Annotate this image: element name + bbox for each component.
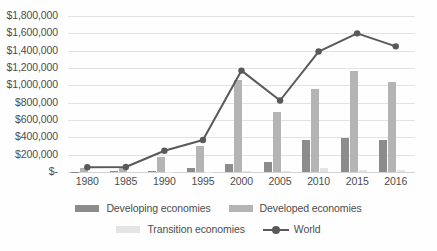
world-line-marker	[123, 164, 129, 170]
world-line-series	[68, 16, 415, 172]
y-axis-tick-label: $1,200,000	[0, 62, 58, 72]
legend-swatch-transition	[116, 226, 140, 233]
y-axis-tick-label: $-	[0, 166, 58, 176]
world-line-marker	[393, 43, 399, 49]
y-axis-tick-label: $200,000	[0, 149, 58, 159]
gridline	[68, 172, 415, 173]
world-line-marker	[238, 67, 244, 73]
world-line-marker	[200, 137, 206, 143]
y-axis-tick-label: $600,000	[0, 114, 58, 124]
y-axis-tick-labels: $1,800,000$1,600,000$1,400,000$1,200,000…	[0, 11, 62, 173]
y-axis-tick-label: $400,000	[0, 131, 58, 141]
fdi-inflows-combo-chart: $1,800,000$1,600,000$1,400,000$1,200,000…	[0, 0, 437, 251]
world-line-marker	[315, 48, 321, 54]
y-axis-tick-label: $1,400,000	[0, 45, 58, 55]
y-axis-tick-label: $1,000,000	[0, 79, 58, 89]
legend-row-bottom: Transition economiesWorld	[0, 220, 437, 238]
plot-area	[68, 16, 415, 172]
legend-item-label: World	[294, 223, 321, 235]
world-line-marker	[277, 97, 283, 103]
y-axis-tick-label: $800,000	[0, 97, 58, 107]
y-axis-tick-label: $1,600,000	[0, 27, 58, 37]
legend-item[interactable]: Developed economies	[229, 202, 362, 214]
y-axis-tick-label: $1,800,000	[0, 10, 58, 20]
legend-item-label: Developed economies	[260, 202, 362, 214]
x-axis-tick-labels: 198019851990199520002005201020152016	[68, 175, 415, 193]
world-line-marker	[161, 148, 167, 154]
legend-swatch-developing	[75, 205, 99, 212]
world-line-path	[87, 33, 395, 167]
legend-item[interactable]: Transition economies	[116, 223, 244, 235]
world-line-marker	[354, 30, 360, 36]
legend-row-top: Developing economiesDeveloped economies	[0, 199, 437, 217]
legend-item[interactable]: World	[263, 223, 321, 235]
legend-item-label: Developing economies	[106, 202, 210, 214]
chart-plot-wrapper: $1,800,000$1,600,000$1,400,000$1,200,000…	[0, 0, 437, 195]
legend-item-label: Transition economies	[147, 223, 244, 235]
legend-item[interactable]: Developing economies	[75, 202, 210, 214]
legend-swatch-line-marker	[263, 225, 289, 234]
chart-legend: Developing economiesDeveloped economies …	[0, 197, 437, 245]
legend-swatch-developed	[229, 205, 253, 212]
x-axis-tick-label: 2016	[373, 175, 419, 187]
world-line-marker	[84, 164, 90, 170]
